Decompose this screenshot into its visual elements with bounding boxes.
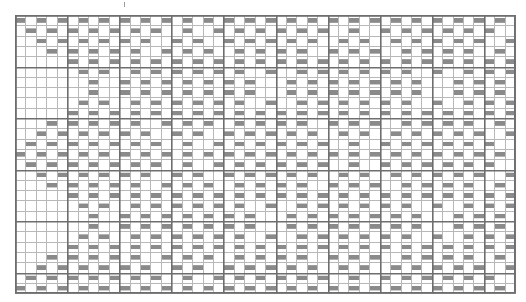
pattern-chart-page bbox=[0, 0, 526, 302]
top-tick-mark bbox=[124, 2, 125, 7]
grid-chart-area[interactable] bbox=[14, 14, 516, 294]
pattern-grid-canvas[interactable] bbox=[14, 14, 516, 294]
